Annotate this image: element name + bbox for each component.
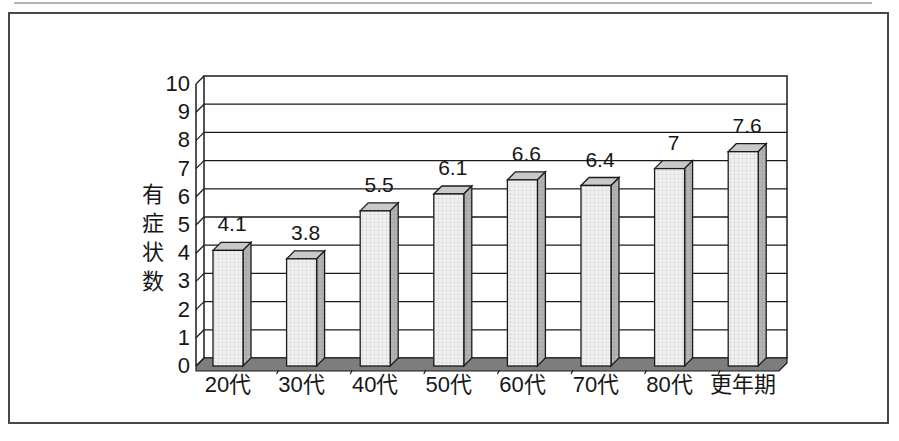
y-tick-label-3: 3 [130, 269, 190, 293]
y-tick-label-1: 1 [130, 326, 190, 350]
bar-60代 [507, 172, 545, 366]
y-tick-label-6: 6 [130, 185, 190, 209]
bar-side-face [685, 161, 693, 366]
value-label-7: 7.6 [701, 114, 793, 138]
y-axis-tick-9 [196, 104, 204, 112]
scan-artifact-line [14, 2, 872, 4]
y-axis-tick-8 [196, 132, 204, 140]
bar-side-face [243, 242, 251, 366]
bar-front-face [360, 211, 390, 366]
y-tick-label-5: 5 [130, 213, 190, 237]
bar-side-face [758, 144, 766, 366]
bar-front-face [655, 169, 685, 366]
y-tick-label-10: 10 [130, 72, 190, 96]
scanned-chart-figure: 有症状数 01234567891020代30代40代50代60代70代80代更年… [0, 0, 899, 441]
bar-side-face [464, 186, 472, 366]
bar-front-face [507, 180, 537, 366]
y-axis-tick-6 [196, 189, 204, 197]
bar-chart-area: 有症状数 01234567891020代30代40代50代60代70代80代更年… [10, 14, 887, 422]
y-axis-tick-2 [196, 302, 204, 310]
bar-front-face [213, 250, 243, 366]
y-axis-tick-7 [196, 161, 204, 169]
bar-70代 [581, 178, 619, 366]
bar-side-face [611, 178, 619, 366]
bar-20代 [213, 242, 251, 366]
bar-front-face [287, 259, 317, 366]
y-axis-tick-10 [196, 76, 204, 84]
y-tick-label-2: 2 [130, 298, 190, 322]
bar-side-face [390, 203, 398, 366]
bar-side-face [537, 172, 545, 366]
y-axis-tick-4 [196, 245, 204, 253]
figure-border-frame: 有症状数 01234567891020代30代40代50代60代70代80代更年… [8, 12, 889, 424]
y-axis-tick-3 [196, 273, 204, 281]
bar-front-face [728, 152, 758, 366]
bar-80代 [655, 161, 693, 366]
category-label-更年期: 更年期 [697, 373, 789, 397]
y-tick-label-9: 9 [130, 100, 190, 124]
bar-30代 [287, 251, 325, 366]
y-tick-label-0: 0 [130, 354, 190, 378]
bar-40代 [360, 203, 398, 366]
chart-floor [196, 358, 787, 371]
y-tick-label-4: 4 [130, 241, 190, 265]
y-axis-tick-1 [196, 330, 204, 338]
y-tick-label-8: 8 [130, 128, 190, 152]
value-label-1: 3.8 [260, 221, 352, 245]
bar-side-face [317, 251, 325, 366]
bar-50代 [434, 186, 472, 366]
bar-front-face [581, 186, 611, 366]
bar-更年期 [728, 144, 766, 366]
bar-front-face [434, 194, 464, 366]
y-tick-label-7: 7 [130, 157, 190, 181]
